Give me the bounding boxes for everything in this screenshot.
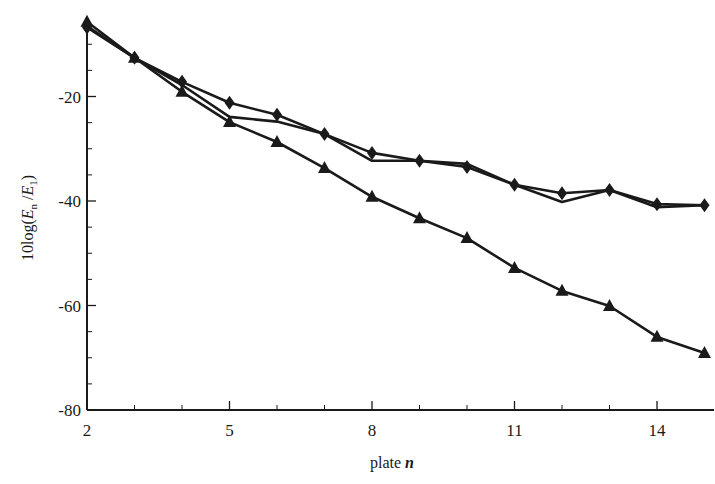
x-tick-label: 5	[225, 421, 234, 440]
x-tick-label: 11	[506, 421, 522, 440]
triangle-marker-icon	[651, 330, 664, 342]
series-none	[87, 26, 705, 207]
y-tick-label: -80	[58, 401, 81, 420]
y-tick-label: -60	[58, 297, 81, 316]
diamond-marker-icon	[557, 186, 567, 200]
series-line	[87, 28, 705, 206]
x-tick-label: 2	[83, 421, 92, 440]
triangle-marker-icon	[366, 190, 379, 202]
x-tick-label: 8	[368, 421, 377, 440]
diamond-marker-icon	[652, 197, 662, 211]
triangle-marker-icon	[81, 15, 94, 27]
triangle-marker-icon	[508, 261, 521, 273]
series-triangle	[81, 15, 712, 358]
triangle-marker-icon	[128, 51, 141, 63]
y-tick-label: -20	[58, 88, 81, 107]
y-axis-label: 10log(En /E1)	[19, 175, 39, 261]
series-diamond	[82, 21, 710, 213]
diamond-marker-icon	[225, 96, 235, 110]
diamond-marker-icon	[272, 108, 282, 122]
x-axis-label: plate n	[370, 454, 414, 472]
diamond-marker-icon	[462, 160, 472, 174]
axes: -20-40-60-802581114	[58, 23, 714, 440]
x-tick-label: 14	[649, 421, 667, 440]
line-chart: -20-40-60-802581114 plate n 10log(En /E1…	[0, 0, 715, 484]
y-tick-label: -40	[58, 192, 81, 211]
series-line	[87, 26, 705, 207]
plot-series	[81, 15, 712, 358]
